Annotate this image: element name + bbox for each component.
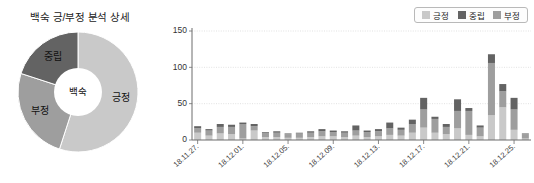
bar-segment-긍정[interactable] xyxy=(511,130,518,140)
bar-segment-부정[interactable] xyxy=(386,128,393,135)
bar-segment-부정[interactable] xyxy=(352,131,359,136)
bar-segment-부정[interactable] xyxy=(454,111,461,128)
bar-segment-부정[interactable] xyxy=(205,131,212,136)
sentiment-analysis-dashboard: 백숙 긍/부정 분석 상세 긍정부정중립백숙 긍정중립부정 0501001501… xyxy=(0,0,534,183)
bar-segment-중립[interactable] xyxy=(477,125,484,127)
bar-segment-긍정[interactable] xyxy=(465,135,472,140)
bar-segment-중립[interactable] xyxy=(398,128,405,130)
bar-segment-중립[interactable] xyxy=(205,129,212,130)
bar-segment-중립[interactable] xyxy=(318,129,325,131)
bar-segment-중립[interactable] xyxy=(330,131,337,132)
bar-segment-긍정[interactable] xyxy=(330,136,337,140)
bar-segment-부정[interactable] xyxy=(499,91,506,107)
bar-segment-중립[interactable] xyxy=(296,133,303,134)
bar-segment-중립[interactable] xyxy=(352,125,359,130)
donut-segment-label-긍정: 긍정 xyxy=(112,92,130,103)
x-axis-tick-label: 18.12.09. xyxy=(307,142,336,170)
bar-segment-중립[interactable] xyxy=(285,133,292,134)
bar-segment-중립[interactable] xyxy=(499,84,506,91)
bar-segment-긍정[interactable] xyxy=(375,136,382,140)
bar-segment-긍정[interactable] xyxy=(454,128,461,140)
x-axis-tick-label: 18.12.13. xyxy=(352,142,381,170)
bar-segment-중립[interactable] xyxy=(465,108,472,111)
bar-segment-부정[interactable] xyxy=(465,111,472,135)
bar-segment-긍정[interactable] xyxy=(205,136,212,140)
bar-segment-긍정[interactable] xyxy=(499,107,506,140)
bar-segment-중립[interactable] xyxy=(262,132,269,133)
x-axis-tick-label: 18.11.27. xyxy=(172,142,201,169)
bar-segment-긍정[interactable] xyxy=(431,133,438,140)
bar-segment-긍정[interactable] xyxy=(443,134,450,140)
bar-segment-부정[interactable] xyxy=(251,126,258,130)
bar-segment-부정[interactable] xyxy=(262,133,269,137)
bar-segment-중립[interactable] xyxy=(431,117,438,119)
bar-segment-긍정[interactable] xyxy=(409,133,416,140)
x-axis-tick-label: 18.12.01. xyxy=(216,142,245,170)
y-axis-tick-label: 100 xyxy=(173,62,187,72)
bar-segment-긍정[interactable] xyxy=(352,136,359,140)
bar-segment-중립[interactable] xyxy=(522,133,529,134)
bar-segment-부정[interactable] xyxy=(398,130,405,136)
bar-segment-긍정[interactable] xyxy=(488,115,495,140)
bar-segment-긍정[interactable] xyxy=(251,131,258,140)
bar-segment-부정[interactable] xyxy=(217,127,224,134)
bar-segment-긍정[interactable] xyxy=(318,136,325,140)
bar-segment-중립[interactable] xyxy=(454,99,461,111)
x-axis-tick-label: 18.12.05. xyxy=(262,142,291,170)
x-axis-tick-label: 18.12.25. xyxy=(488,142,517,170)
bar-segment-부정[interactable] xyxy=(409,124,416,133)
bar-segment-긍정[interactable] xyxy=(386,135,393,140)
bar-segment-부정[interactable] xyxy=(273,133,280,137)
bar-segment-중립[interactable] xyxy=(375,129,382,131)
bar-segment-부정[interactable] xyxy=(431,119,438,133)
bar-segment-부정[interactable] xyxy=(194,128,201,132)
bar-segment-중립[interactable] xyxy=(251,124,258,126)
donut-chart-title: 백숙 긍/부정 분석 상세 xyxy=(0,9,160,24)
bar-segment-부정[interactable] xyxy=(318,131,325,136)
bar-segment-긍정[interactable] xyxy=(398,136,405,140)
bar-segment-긍정[interactable] xyxy=(477,136,484,140)
x-axis-tick-label: 18.12.17. xyxy=(397,142,426,170)
bar-segment-중립[interactable] xyxy=(217,124,224,127)
bar-segment-부정[interactable] xyxy=(330,132,337,136)
x-axis-tick-label: 18.12.21. xyxy=(442,142,471,170)
bar-segment-긍정[interactable] xyxy=(228,134,235,140)
bar-segment-부정[interactable] xyxy=(375,131,382,136)
bar-segment-중립[interactable] xyxy=(409,120,416,124)
y-axis-tick-label: 150 xyxy=(173,25,187,35)
bar-segment-부정[interactable] xyxy=(307,133,314,137)
bar-segment-중립[interactable] xyxy=(443,124,450,127)
bar-segment-부정[interactable] xyxy=(228,127,235,134)
bar-chart-panel: 긍정중립부정 05010015018.11.27.18.12.01.18.12.… xyxy=(160,0,534,183)
bar-segment-중립[interactable] xyxy=(420,98,427,110)
bar-segment-부정[interactable] xyxy=(488,63,495,115)
bar-segment-중립[interactable] xyxy=(364,131,371,132)
bar-segment-부정[interactable] xyxy=(364,132,371,137)
bar-segment-긍정[interactable] xyxy=(420,128,427,140)
bar-segment-중립[interactable] xyxy=(273,131,280,132)
bar-segment-중립[interactable] xyxy=(194,126,201,128)
bar-segment-부정[interactable] xyxy=(420,109,427,127)
bar-chart-svg: 05010015018.11.27.18.12.01.18.12.05.18.1… xyxy=(160,0,534,183)
donut-chart: 긍정부정중립백숙 xyxy=(16,30,140,154)
bar-segment-부정[interactable] xyxy=(443,127,450,134)
bar-segment-긍정[interactable] xyxy=(217,133,224,140)
bar-segment-부정[interactable] xyxy=(285,134,292,138)
bar-segment-부정[interactable] xyxy=(477,128,484,137)
bar-segment-중립[interactable] xyxy=(386,123,393,129)
y-axis-tick-label: 50 xyxy=(178,98,188,108)
bar-segment-중립[interactable] xyxy=(307,131,314,132)
bar-segment-부정[interactable] xyxy=(239,124,246,139)
bar-segment-중립[interactable] xyxy=(488,54,495,63)
bar-segment-중립[interactable] xyxy=(228,125,235,127)
bar-segment-중립[interactable] xyxy=(239,123,246,124)
bar-segment-중립[interactable] xyxy=(341,131,348,132)
donut-center-label: 백숙 xyxy=(69,86,87,97)
bar-segment-부정[interactable] xyxy=(341,133,348,137)
bar-segment-긍정[interactable] xyxy=(194,133,201,140)
bar-segment-부정[interactable] xyxy=(522,134,529,138)
bar-segment-부정[interactable] xyxy=(511,109,518,129)
bar-segment-중립[interactable] xyxy=(511,98,518,110)
donut-segment-label-중립: 중립 xyxy=(44,50,62,62)
bar-segment-부정[interactable] xyxy=(296,133,303,137)
